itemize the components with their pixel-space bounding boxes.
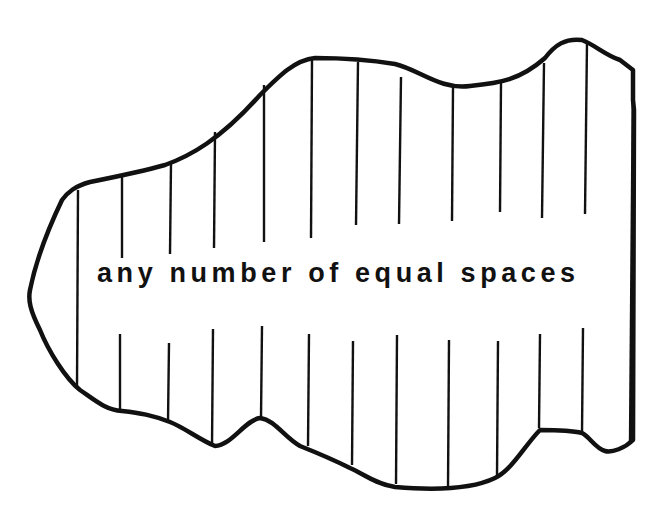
caption-label: any number of equal spaces — [97, 258, 617, 289]
divider-line-7-bottom — [352, 341, 353, 465]
divider-line-8-bottom — [396, 335, 397, 484]
divider-line-5-bottom — [261, 326, 262, 418]
divider-line-1 — [77, 190, 78, 388]
divider-line-3-bottom — [168, 343, 169, 422]
divider-line-10-top — [500, 83, 501, 212]
divider-line-6-top — [311, 60, 312, 238]
divider-line-11-top — [542, 63, 544, 218]
divider-line-10-bottom — [497, 341, 498, 476]
divider-line-11-bottom — [539, 334, 540, 428]
divider-line-3-top — [170, 163, 171, 254]
divider-line-12-top — [585, 42, 587, 214]
irregular-shape-diagram: any number of equal spaces — [0, 0, 659, 518]
divider-line-8-top — [399, 77, 401, 224]
divider-line-12-bottom — [582, 328, 583, 433]
divider-line-9-bottom — [448, 340, 449, 487]
divider-line-4-bottom — [212, 329, 213, 446]
divider-line-9-top — [452, 88, 453, 221]
divider-line-6-bottom — [308, 334, 309, 446]
divider-line-4-top — [214, 132, 215, 248]
divider-line-7-top — [356, 62, 358, 225]
